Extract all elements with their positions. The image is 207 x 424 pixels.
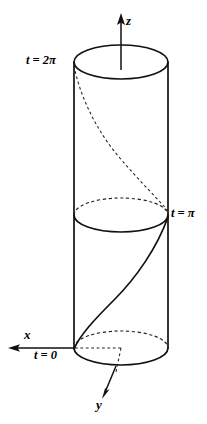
axis-label-y: y: [96, 398, 102, 411]
cylinder-mid-rim-front: [74, 215, 168, 232]
label-t-equals-0: t = 0: [34, 349, 57, 362]
helix-back-segment: [74, 66, 168, 211]
axis-label-z: z: [126, 14, 131, 27]
label-t-equals-pi: t = π: [171, 207, 195, 220]
y-axis-line: [106, 366, 116, 390]
cylinder-mid-rim-back: [74, 198, 168, 215]
y-axis-hidden-radius: [116, 348, 121, 372]
cylinder-bottom-rim-back: [74, 331, 168, 348]
y-axis-arrowhead: [102, 388, 110, 399]
label-t-equals-2pi: t = 2π: [26, 54, 56, 67]
figure-root: t = 2π t = π t = 0 z x y: [0, 0, 207, 424]
helix-front-segment: [74, 217, 168, 349]
axis-label-x: x: [24, 328, 31, 341]
figure-caption: [0, 415, 207, 424]
